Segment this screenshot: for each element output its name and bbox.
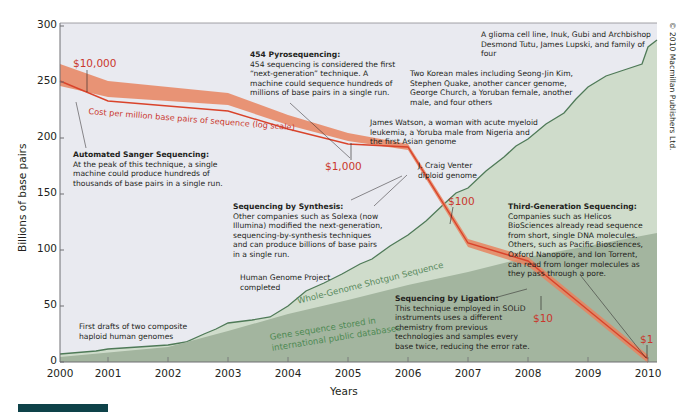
- annotation-line: J. Craig Venter: [418, 161, 477, 171]
- annotation-line: A glioma cell line, Inuk, Gubi and Archb…: [481, 30, 651, 40]
- annotation-title: Sequencing by Synthesis:: [233, 202, 343, 211]
- cost-label-1000: $1,000: [325, 160, 362, 172]
- annotation-line: Human Genome Project: [240, 273, 330, 283]
- annotation-line: chemistry from previous: [395, 323, 530, 333]
- annotation-line: machine could produce hundreds of: [73, 169, 223, 179]
- annotation-line: machine could sequence hundreds of: [250, 79, 395, 89]
- y-tick-200: 200: [27, 130, 57, 142]
- annotation-venter: J. Craig Venter diploid genome: [418, 161, 477, 180]
- annotation-ligation: Sequencing by Ligation: This technique e…: [395, 294, 530, 352]
- annotation-hgp: Human Genome Project completed: [240, 273, 330, 292]
- x-tick-2010: 2010: [628, 367, 668, 379]
- y-tick-300: 300: [27, 18, 57, 30]
- y-tick-0: 0: [27, 354, 57, 366]
- annotation-title: 454 Pyrosequencing:: [250, 50, 340, 59]
- annotation-line: millions of base pairs in a single run.: [250, 88, 395, 98]
- annotation-line: This technique employed in SOLiD: [395, 304, 530, 314]
- annotation-line: base twice, reducing the error rate.: [395, 342, 530, 352]
- y-tick-100: 100: [27, 242, 57, 254]
- annotation-line: thousands of base pairs in a single run.: [73, 179, 223, 189]
- annotation-line: in a single run.: [233, 250, 382, 260]
- figure-tab: [18, 404, 108, 412]
- annotation-line: they pass through a pore.: [508, 269, 643, 279]
- x-tick-2005: 2005: [328, 367, 368, 379]
- x-tick-2007: 2007: [448, 367, 488, 379]
- annotation-line: James Watson, a woman with acute myeloid: [370, 118, 538, 128]
- annotation-third-generation: Third-Generation Sequencing: Companies s…: [508, 202, 643, 279]
- cost-label-10: $10: [533, 312, 553, 324]
- y-tick-50: 50: [27, 298, 57, 310]
- annotation-line: BioSciences already read sequence: [508, 221, 643, 231]
- annotation-korean: Two Korean males including Seong-Jin Kim…: [410, 69, 573, 107]
- annotation-line: First drafts of two composite: [79, 322, 187, 332]
- annotation-line: diploid genome: [418, 171, 477, 181]
- annotation-line: Others, such as Pacific Biosciences,: [508, 240, 643, 250]
- annotation-line: can read from longer molecules as: [508, 260, 643, 270]
- annotation-title: Sequencing by Ligation:: [395, 294, 499, 303]
- annotation-line: and can produce billions of base pairs: [233, 240, 382, 250]
- annotation-line: male, and four others: [410, 98, 573, 108]
- annotation-title: Third-Generation Sequencing:: [508, 202, 637, 211]
- annotation-line: “next-generation” technique. A: [250, 69, 395, 79]
- annotation-pyrosequencing: 454 Pyrosequencing: 454 sequencing is co…: [250, 50, 395, 98]
- cost-label-100: $100: [448, 195, 475, 207]
- x-tick-2004: 2004: [268, 367, 308, 379]
- annotation-watson: James Watson, a woman with acute myeloid…: [370, 118, 538, 147]
- copyright-notice: © 2010 Macmillan Publishers Ltd.: [668, 22, 677, 150]
- annotation-line: the first Asian genome: [370, 137, 538, 147]
- annotation-line: George Church, a Yoruban female, another: [410, 88, 573, 98]
- x-tick-2003: 2003: [208, 367, 248, 379]
- cost-label-1: $1: [640, 333, 653, 345]
- annotation-line: from short, single DNA molecules.: [508, 231, 643, 241]
- annotation-synthesis: Sequencing by Synthesis: Other companies…: [233, 202, 382, 260]
- annotation-first-drafts: First drafts of two composite haploid hu…: [79, 322, 187, 341]
- annotation-line: 454 sequencing is considered the first: [250, 60, 395, 70]
- x-axis-title: Years: [330, 385, 358, 397]
- annotation-line: technologies and samples every: [395, 332, 530, 342]
- annotation-glioma: A glioma cell line, Inuk, Gubi and Archb…: [481, 30, 651, 59]
- annotation-title: Automated Sanger Sequencing:: [73, 150, 209, 159]
- x-tick-2001: 2001: [88, 367, 128, 379]
- annotation-line: instruments uses a different: [395, 313, 530, 323]
- x-tick-2006: 2006: [388, 367, 428, 379]
- x-tick-2008: 2008: [508, 367, 548, 379]
- annotation-line: Companies such as Helicos: [508, 212, 643, 222]
- y-tick-150: 150: [27, 186, 57, 198]
- cost-label-10000: $10,000: [73, 57, 116, 69]
- y-axis-title: Billions of base pairs: [16, 144, 28, 252]
- annotation-line: haploid human genomes: [79, 332, 187, 342]
- annotation-line: Oxford Nanopore, and Ion Torrent,: [508, 250, 643, 260]
- annotation-line: sequencing-by-synthesis techniques: [233, 231, 382, 241]
- annotation-line: completed: [240, 283, 330, 293]
- annotation-line: At the peak of this technique, a single: [73, 160, 223, 170]
- y-tick-250: 250: [27, 74, 57, 86]
- x-tick-2002: 2002: [148, 367, 188, 379]
- x-tick-2009: 2009: [568, 367, 608, 379]
- annotation-line: four: [481, 49, 651, 59]
- annotation-line: leukemia, a Yoruba male from Nigeria and: [370, 128, 538, 138]
- annotation-line: Two Korean males including Seong-Jin Kim…: [410, 69, 573, 79]
- x-tick-2000: 2000: [40, 367, 80, 379]
- annotation-line: Desmond Tutu, James Lupski, and family o…: [481, 40, 651, 50]
- annotation-line: Stephen Quake, another cancer genome,: [410, 79, 573, 89]
- annotation-line: Other companies such as Solexa (now: [233, 212, 382, 222]
- annotation-line: Illumina) modified the next-generation,: [233, 221, 382, 231]
- annotation-sanger: Automated Sanger Sequencing: At the peak…: [73, 150, 223, 188]
